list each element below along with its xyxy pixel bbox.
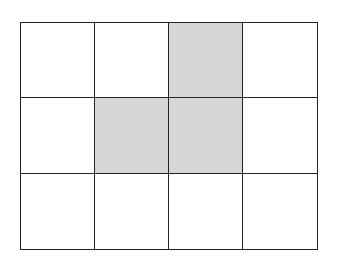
shaded-cell — [169, 98, 243, 173]
shaded-cell — [169, 23, 243, 98]
empty-cell — [243, 23, 317, 98]
empty-cell — [95, 23, 169, 98]
empty-cell — [95, 174, 169, 249]
empty-cell — [169, 174, 243, 249]
grid — [20, 22, 318, 250]
shaded-cell — [95, 98, 169, 173]
empty-cell — [243, 174, 317, 249]
empty-cell — [243, 98, 317, 173]
empty-cell — [21, 23, 95, 98]
empty-cell — [21, 98, 95, 173]
empty-cell — [21, 174, 95, 249]
